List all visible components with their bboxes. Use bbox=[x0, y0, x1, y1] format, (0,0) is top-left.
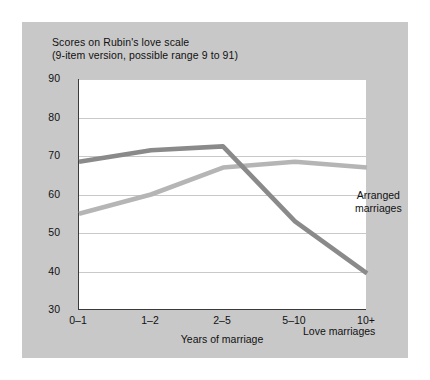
chart-title: Scores on Rubin's love scale (9-item ver… bbox=[52, 36, 382, 62]
y-tick-label-50: 50 bbox=[20, 226, 60, 238]
x-tick-label-1: 1–2 bbox=[141, 314, 159, 326]
y-tick-label-40: 40 bbox=[20, 265, 60, 277]
y-tick-label-60: 60 bbox=[20, 188, 60, 200]
x-tick-label-2: 2–5 bbox=[213, 314, 231, 326]
chart-title-line-2: (9-item version, possible range 9 to 91) bbox=[52, 49, 382, 62]
x-axis-title: Years of marriage bbox=[78, 333, 366, 345]
x-tick-label-0: 0–1 bbox=[69, 314, 87, 326]
x-tick-label-4: 10+ bbox=[357, 314, 375, 326]
y-tick-label-70: 70 bbox=[20, 149, 60, 161]
chart-figure-panel: Scores on Rubin's love scale (9-item ver… bbox=[22, 22, 408, 358]
series-label-arranged-line-2: marriages bbox=[355, 202, 402, 215]
y-tick-label-30: 30 bbox=[20, 303, 60, 315]
series-label-arranged-marriages: Arranged marriages bbox=[355, 189, 402, 214]
y-tick-label-90: 90 bbox=[20, 72, 60, 84]
x-tick-label-3: 5–10 bbox=[282, 314, 305, 326]
plot-area: Arranged marriages Love marriages bbox=[78, 79, 366, 310]
series-label-arranged-line-1: Arranged bbox=[355, 189, 402, 202]
chart-title-line-1: Scores on Rubin's love scale bbox=[52, 36, 382, 49]
series-lines bbox=[79, 79, 367, 310]
line-love-marriages bbox=[79, 162, 367, 214]
y-tick-label-80: 80 bbox=[20, 111, 60, 123]
